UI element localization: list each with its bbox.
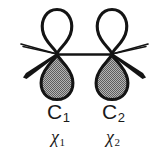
figure-background <box>0 0 163 161</box>
orbital-diagram-canvas <box>0 0 163 161</box>
orbital-diagram-figure: C1 C2 χ1 χ2 <box>0 0 163 161</box>
